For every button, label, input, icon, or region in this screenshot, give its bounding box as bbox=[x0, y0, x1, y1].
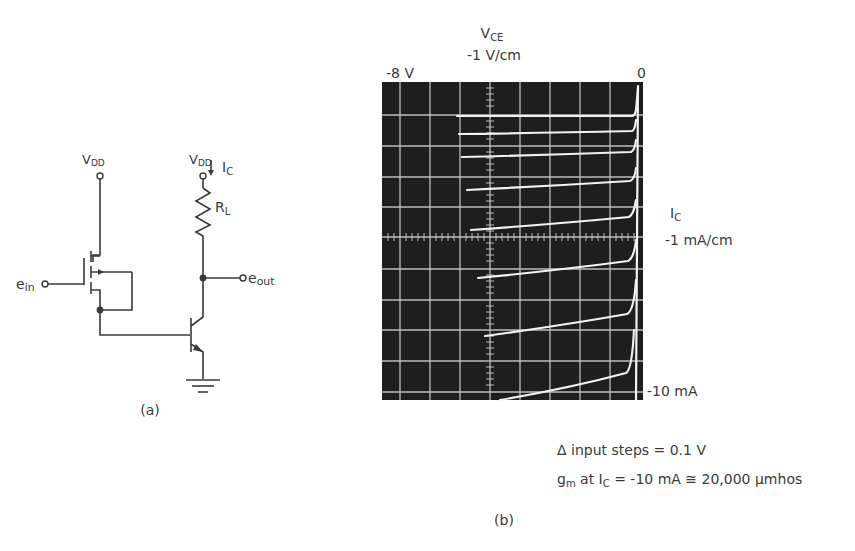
caption-a: (a) bbox=[140, 402, 160, 418]
ground-icon bbox=[186, 380, 220, 392]
ic-axis-name: IC bbox=[670, 205, 681, 223]
note-gm: gm at IC = -10 mA ≅ 20,000 μmhos bbox=[557, 471, 802, 489]
rl-label: RL bbox=[215, 199, 231, 217]
vdd-right-label: VDD bbox=[189, 152, 212, 168]
vdd-left-terminal bbox=[97, 173, 103, 179]
load-resistor bbox=[196, 188, 210, 278]
mosfet-drain-wire bbox=[93, 179, 100, 262]
vdd-left-label: VDD bbox=[82, 152, 105, 168]
mosfet-arrow-icon bbox=[98, 269, 104, 275]
emitter-arrow-icon bbox=[193, 344, 203, 352]
ic-scale-label: -1 mA/cm bbox=[665, 232, 733, 248]
mosfet-symbol bbox=[84, 251, 132, 310]
ic-label: IC bbox=[222, 159, 233, 177]
oscilloscope-plot: VCE -1 V/cm -8 V 0 bbox=[382, 25, 802, 528]
note-input-steps: Δ input steps = 0.1 V bbox=[557, 442, 706, 458]
caption-b: (b) bbox=[494, 512, 514, 528]
vce-scale-label: -1 V/cm bbox=[467, 47, 521, 63]
vce-axis-name: VCE bbox=[481, 25, 504, 43]
ein-label: inein bbox=[16, 276, 35, 294]
x-right-label: 0 bbox=[637, 65, 646, 81]
x-left-label: -8 V bbox=[386, 65, 414, 81]
eout-terminal bbox=[240, 275, 246, 281]
bjt-symbol bbox=[191, 280, 203, 379]
vdd-right-terminal bbox=[200, 173, 206, 179]
y-bottom-label: -10 mA bbox=[647, 383, 698, 399]
circuit-schematic: VDD inein bbox=[16, 152, 275, 418]
eout-label: eout bbox=[248, 270, 275, 288]
ic-arrowhead-icon bbox=[208, 170, 214, 176]
ein-terminal bbox=[42, 281, 48, 287]
source-to-base-wire bbox=[100, 310, 190, 335]
figure-canvas: VDD inein bbox=[0, 0, 855, 551]
